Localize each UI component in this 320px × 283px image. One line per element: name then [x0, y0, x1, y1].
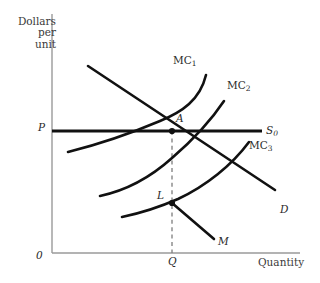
curve-label-mc3: MC3	[249, 140, 273, 151]
economics-supply-demand-figure: Dollars per unit Quantity 0 P Q MC1 MC2 …	[0, 0, 320, 283]
x-axis-title: Quantity	[258, 257, 304, 268]
point-label-l: L	[157, 190, 164, 201]
curve-label-mc1-subscript: 1	[192, 59, 197, 68]
curve-label-mc2: MC2	[227, 80, 251, 91]
curve-label-mc2-text: MC	[227, 79, 246, 91]
curve-label-marginal-m: M	[218, 236, 229, 247]
curve-label-mc1: MC1	[173, 55, 197, 66]
curve-label-mc1-text: MC	[173, 54, 192, 66]
curve-label-demand: D	[280, 204, 288, 215]
point-label-a: A	[176, 113, 184, 124]
origin-label: 0	[36, 250, 43, 261]
point-l-marker	[169, 200, 175, 206]
curve-label-mc2-subscript: 2	[246, 84, 251, 93]
curve-marginal-m	[172, 203, 214, 239]
curve-label-mc3-subscript: 3	[268, 144, 273, 153]
price-tick-label-p: P	[38, 122, 45, 133]
quantity-tick-label-q: Q	[168, 256, 177, 267]
curve-label-supply-s0: S0	[266, 125, 278, 136]
y-axis-title: Dollars per unit	[4, 16, 56, 50]
y-axis-title-line3: unit	[4, 39, 56, 50]
point-a-marker	[169, 128, 175, 134]
curve-label-supply-subscript: 0	[273, 129, 278, 138]
y-axis-title-line2: per	[4, 27, 56, 38]
curve-label-mc3-text: MC	[249, 139, 268, 151]
curve-mc1	[68, 75, 206, 152]
